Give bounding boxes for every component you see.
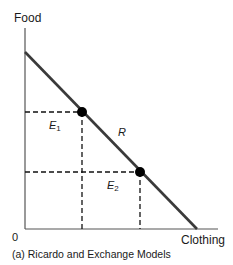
figure-caption: (a) Ricardo and Exchange Models bbox=[12, 249, 171, 260]
y-axis-label: Food bbox=[14, 12, 41, 24]
point-e1 bbox=[77, 107, 87, 117]
origin-label: 0 bbox=[12, 232, 18, 243]
x-axis-label: Clothing bbox=[181, 234, 225, 246]
curve-label-r: R bbox=[118, 127, 126, 138]
point-e2 bbox=[135, 167, 145, 177]
point-label-e1: E1 bbox=[49, 120, 61, 133]
ppf-line-r bbox=[25, 52, 197, 229]
diagram-canvas bbox=[0, 0, 233, 265]
point-label-e2: E2 bbox=[107, 180, 119, 193]
